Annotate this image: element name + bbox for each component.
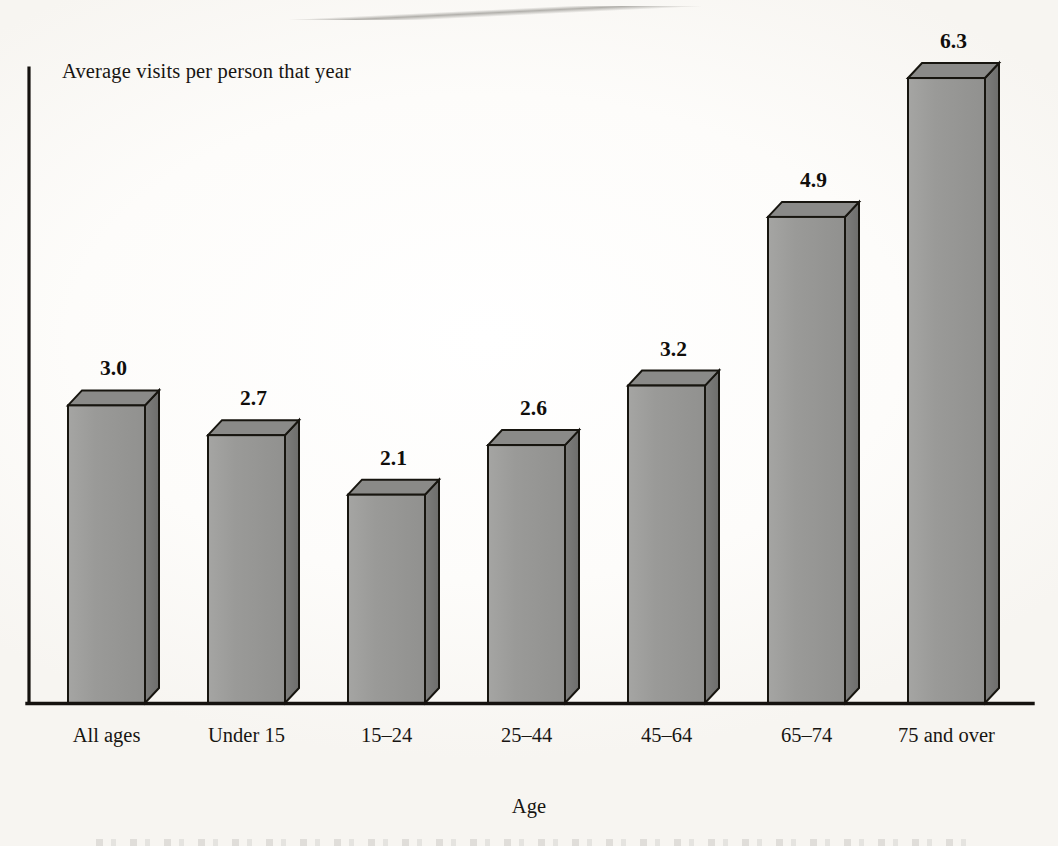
bar [628, 371, 719, 703]
value-label: 3.0 [54, 356, 174, 381]
value-label: 2.1 [334, 446, 454, 471]
bar [208, 420, 299, 703]
x-axis-title: Age [0, 795, 1058, 818]
bar [908, 63, 999, 703]
bar [68, 390, 159, 703]
chart-plot-area [0, 0, 1058, 846]
bar [348, 480, 439, 703]
value-label: 4.9 [754, 168, 874, 193]
category-label: 75 and over [837, 724, 1057, 747]
value-label: 2.6 [474, 396, 594, 421]
bar-series [68, 63, 999, 703]
bar-chart: Average visits per person that year Age … [0, 0, 1058, 846]
value-label: 2.7 [194, 386, 314, 411]
y-axis-title: Average visits per person that year [62, 60, 351, 83]
value-label: 3.2 [614, 337, 734, 362]
value-label: 6.3 [894, 29, 1014, 54]
bar [488, 430, 579, 703]
bar [768, 202, 859, 703]
